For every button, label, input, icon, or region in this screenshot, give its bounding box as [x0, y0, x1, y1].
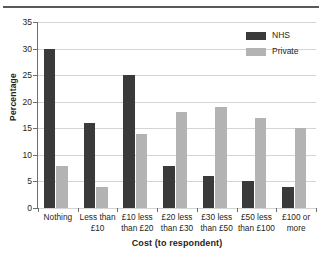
legend-label: NHS	[272, 31, 290, 40]
y-gridline	[38, 75, 316, 76]
x-axis-tick	[117, 208, 118, 212]
bar-private-1	[96, 187, 108, 208]
bar-private-0	[56, 166, 68, 209]
x-axis-category-label-6: £100 ormore	[272, 212, 320, 233]
top-divider	[3, 6, 319, 8]
x-axis-title: Cost (to respondent)	[38, 238, 316, 248]
y-axis-tick-label: 30	[2, 45, 32, 54]
y-gridline	[38, 22, 316, 23]
x-axis-tick	[157, 208, 158, 212]
x-axis-label-line: £100 or	[272, 212, 320, 223]
bar-nhs-3	[163, 166, 175, 209]
bar-private-2	[136, 134, 148, 208]
x-axis-tick	[316, 208, 317, 212]
legend-swatch-icon	[246, 32, 266, 40]
bar-nhs-5	[242, 181, 254, 208]
chart-legend: NHSPrivate	[246, 29, 298, 61]
y-axis-tick-label: 0	[2, 204, 32, 213]
bar-nhs-0	[44, 49, 56, 208]
y-axis-tick-label: 5	[2, 177, 32, 186]
bar-private-5	[255, 118, 267, 208]
x-axis-tick	[276, 208, 277, 212]
x-axis-tick	[38, 208, 39, 212]
y-axis-tick	[33, 49, 37, 50]
y-axis-tick	[33, 208, 37, 209]
y-axis-tick	[33, 155, 37, 156]
bar-nhs-2	[123, 75, 135, 208]
y-axis-tick	[33, 181, 37, 182]
y-axis-tick-label: 35	[2, 18, 32, 27]
y-axis-tick-label: 10	[2, 151, 32, 160]
y-axis-title: Percentage	[8, 62, 18, 132]
legend-label: Private	[272, 47, 298, 56]
bar-nhs-1	[84, 123, 96, 208]
x-axis-tick	[78, 208, 79, 212]
x-axis-tick	[197, 208, 198, 212]
legend-item-private[interactable]: Private	[246, 45, 298, 58]
bar-private-6	[295, 128, 307, 208]
bar-private-4	[215, 107, 227, 208]
y-axis-tick	[33, 128, 37, 129]
y-gridline	[38, 102, 316, 103]
y-axis-tick	[33, 22, 37, 23]
bar-nhs-4	[203, 176, 215, 208]
legend-item-nhs[interactable]: NHS	[246, 29, 298, 42]
y-axis-tick	[33, 102, 37, 103]
y-gridline	[38, 208, 316, 209]
x-axis-tick	[237, 208, 238, 212]
legend-swatch-icon	[246, 48, 266, 56]
x-axis-label-line: more	[272, 223, 320, 234]
bar-private-3	[176, 112, 188, 208]
bar-chart-figure: 05101520253035 Percentage Cost (to respo…	[0, 0, 322, 259]
y-axis-tick	[33, 75, 37, 76]
bar-nhs-6	[282, 187, 294, 208]
